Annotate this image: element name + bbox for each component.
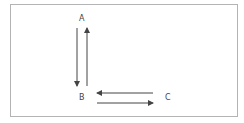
node-label-b: B <box>79 94 85 102</box>
node-label-a: A <box>79 15 84 23</box>
node-label-c: C <box>165 94 171 102</box>
diagram-canvas: A B C <box>0 0 244 123</box>
arrows-layer <box>0 0 244 123</box>
